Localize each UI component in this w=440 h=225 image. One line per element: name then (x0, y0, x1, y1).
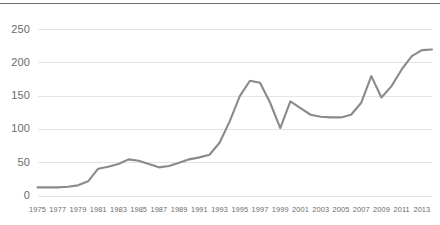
y-tick-label-100: 100 (0, 123, 30, 134)
line-chart: 050100150200250 197519771979198119831985… (0, 0, 440, 225)
data-series-line (38, 49, 433, 187)
x-tick-label-2013: 2013 (409, 206, 435, 214)
chart-plot-area (0, 0, 440, 225)
y-tick-label-200: 200 (0, 57, 30, 68)
y-tick-label-0: 0 (0, 190, 30, 201)
y-tick-label-50: 50 (0, 157, 30, 168)
y-tick-label-250: 250 (0, 24, 30, 35)
y-tick-label-150: 150 (0, 90, 30, 101)
